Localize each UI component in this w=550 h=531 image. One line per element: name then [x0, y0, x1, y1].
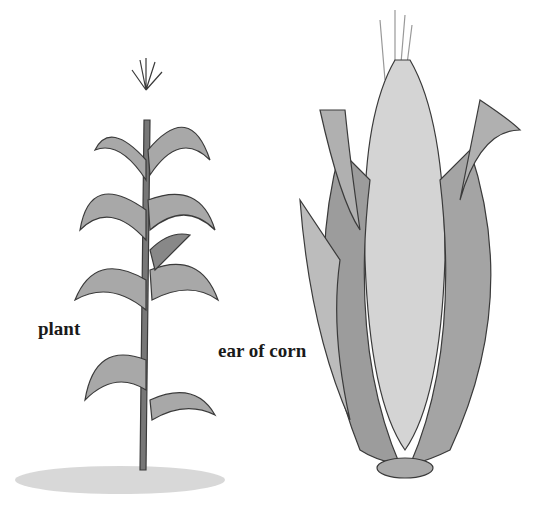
- ground: [15, 466, 225, 494]
- ear-of-corn: [300, 10, 520, 478]
- plant-label: plant: [38, 318, 80, 340]
- ear-of-corn-label: ear of corn: [218, 340, 306, 362]
- illustration: plant ear of corn: [0, 0, 550, 531]
- corn-plant: [75, 58, 218, 470]
- corn-illustration: [0, 0, 550, 531]
